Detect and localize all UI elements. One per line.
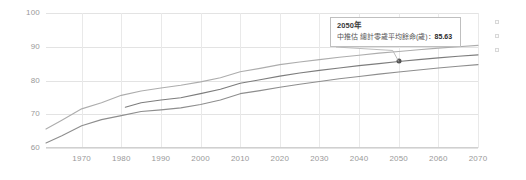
y-tick-label: 100 bbox=[26, 9, 40, 17]
x-tick-label: 2000 bbox=[191, 155, 210, 163]
y-tick-label: 90 bbox=[31, 43, 40, 51]
series-line-male bbox=[46, 65, 478, 143]
highlighted-data-point[interactable] bbox=[396, 59, 401, 64]
series-marker-3[interactable] bbox=[495, 48, 499, 52]
tooltip-separator: ： bbox=[428, 33, 435, 40]
y-tick-label: 80 bbox=[31, 77, 40, 85]
tooltip-value: 85.63 bbox=[435, 33, 453, 40]
x-tick-label: 1980 bbox=[112, 155, 131, 163]
tooltip-title: 2050年 bbox=[337, 21, 455, 32]
x-tick-label: 2020 bbox=[271, 155, 290, 163]
series-marker-1[interactable] bbox=[495, 20, 499, 24]
x-axis-labels: 1970198019902000201020202030204020502060… bbox=[46, 155, 478, 169]
x-tick-label: 1990 bbox=[152, 155, 171, 163]
x-tick-label: 2060 bbox=[429, 155, 448, 163]
y-axis-labels: 10090807060 bbox=[6, 13, 40, 148]
x-tick-label: 2030 bbox=[310, 155, 329, 163]
series-line-female bbox=[46, 45, 478, 129]
x-tick-label: 2040 bbox=[350, 155, 369, 163]
tooltip-body: 中推估 總計零歲平均餘命(歲)：85.63 bbox=[337, 32, 455, 42]
data-tooltip: 2050年 中推估 總計零歲平均餘命(歲)：85.63 bbox=[330, 17, 461, 47]
series-line-total bbox=[125, 55, 478, 107]
life-expectancy-line-chart: 10090807060 1970198019902000201020202030… bbox=[0, 0, 526, 180]
legend bbox=[492, 20, 522, 66]
y-tick-label: 60 bbox=[31, 144, 40, 152]
tooltip-series-label: 中推估 總計零歲平均餘命(歲) bbox=[337, 33, 428, 40]
series-marker-2[interactable] bbox=[495, 34, 499, 38]
x-tick-label: 1970 bbox=[72, 155, 91, 163]
x-tick-label: 2070 bbox=[469, 155, 488, 163]
gridline-horizontal bbox=[46, 148, 478, 149]
y-tick-label: 70 bbox=[31, 110, 40, 118]
x-tick-label: 2050 bbox=[389, 155, 408, 163]
x-tick-label: 2010 bbox=[231, 155, 250, 163]
gridline-vertical bbox=[478, 13, 479, 148]
